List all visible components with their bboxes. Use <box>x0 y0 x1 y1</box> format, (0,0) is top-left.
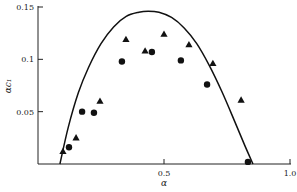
circle-marker <box>245 159 251 165</box>
scatter-chart: 0.050.10.15 0.51.0 α αc₁ <box>0 0 297 192</box>
y-axis-label: αc₁ <box>3 79 13 94</box>
y-tick-label: 0.05 <box>16 108 34 117</box>
triangle-marker <box>209 60 216 66</box>
triangle-marker <box>96 97 103 103</box>
triangle-marker <box>72 134 79 140</box>
circle-marker <box>204 81 210 87</box>
fitted-curve <box>60 11 253 164</box>
triangle-marker <box>185 41 192 47</box>
triangle-marker <box>59 148 66 154</box>
data-markers <box>59 30 251 165</box>
circle-marker <box>91 110 97 116</box>
triangle-marker <box>122 36 129 42</box>
x-ticks: 0.51.0 <box>158 159 297 178</box>
triangle-marker <box>142 47 149 53</box>
circle-marker <box>178 57 184 63</box>
triangle-marker <box>160 30 167 36</box>
x-axis-label: α <box>161 178 167 188</box>
y-tick-label: 0.15 <box>16 3 34 12</box>
circle-marker <box>79 108 85 114</box>
circle-marker <box>149 49 155 55</box>
y-tick-label: 0.1 <box>21 55 34 64</box>
x-tick-label: 1.0 <box>284 169 297 178</box>
circle-marker <box>66 144 72 150</box>
y-ticks: 0.050.10.15 <box>16 3 43 117</box>
triangle-marker <box>238 96 245 102</box>
circle-marker <box>119 58 125 64</box>
x-tick-label: 0.5 <box>158 169 171 178</box>
